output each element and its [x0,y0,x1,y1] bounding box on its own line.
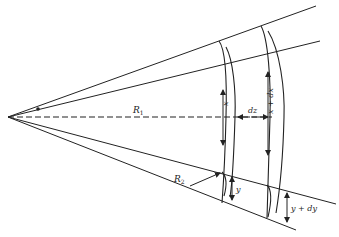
cone-element-diagram: R1 R2 dz x x + dx y y + dy [0,0,339,237]
label-dz: dz [248,106,258,115]
label-y-plus-dy: y + dy [290,204,317,213]
apex-point-marker [36,107,40,111]
label-y: y [235,185,241,194]
r2-leader-arrow [190,173,220,186]
label-r1: R1 [132,105,144,116]
label-r2: R2 [173,174,185,185]
lower-inner-ray [8,117,336,204]
lower-outer-ray [8,117,296,230]
label-x-plus-dx: x + dx [266,88,275,114]
label-x: x [221,101,230,106]
